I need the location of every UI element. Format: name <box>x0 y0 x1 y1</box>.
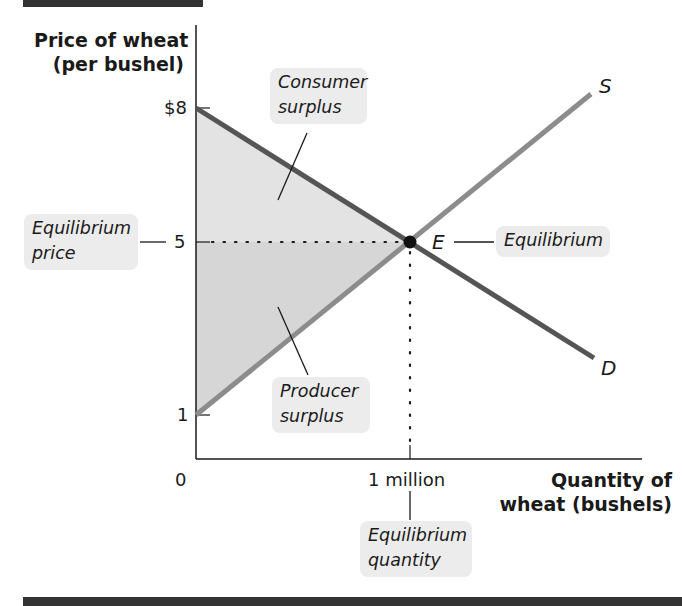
x-axis-title-line2: wheat (bushels) <box>470 492 672 516</box>
y-axis-title-line2: (per bushel) <box>34 52 184 76</box>
x-tick-label-1m: 1 million <box>368 470 445 490</box>
equilibrium-callout: Equilibrium <box>496 226 610 257</box>
consumer-surplus-text-1: Consumer <box>278 70 359 95</box>
y-axis-title: Price of wheat (per bushel) <box>34 28 184 76</box>
supply-label: S <box>599 74 612 98</box>
x-tick-label-0: 0 <box>175 470 186 490</box>
eq-price-text-1: Equilibrium <box>32 216 130 241</box>
eq-price-text-2: price <box>32 241 130 266</box>
demand-label: D <box>601 356 616 380</box>
equilibrium-text: Equilibrium <box>504 228 602 253</box>
equilibrium-point-label: E <box>432 230 445 254</box>
eq-quantity-text-1: Equilibrium <box>368 523 464 548</box>
eq-quantity-text-2: quantity <box>368 548 464 573</box>
equilibrium-price-callout: Equilibrium price <box>24 214 138 270</box>
y-tick-label-1: 1 <box>177 405 188 425</box>
producer-surplus-callout: Producer surplus <box>272 377 370 433</box>
consumer-surplus-callout: Consumer surplus <box>270 68 367 124</box>
equilibrium-quantity-callout: Equilibrium quantity <box>360 521 472 577</box>
producer-surplus-text-1: Producer <box>280 379 362 404</box>
x-axis-title: Quantity of wheat (bushels) <box>470 468 672 516</box>
x-axis-title-line1: Quantity of <box>470 468 672 492</box>
y-tick-label-5: 5 <box>174 232 185 252</box>
consumer-surplus-text-2: surplus <box>278 95 359 120</box>
y-tick-label-8: $8 <box>164 98 187 118</box>
producer-surplus-text-2: surplus <box>280 404 362 429</box>
equilibrium-point <box>404 236 417 249</box>
y-axis-title-line1: Price of wheat <box>34 28 184 52</box>
